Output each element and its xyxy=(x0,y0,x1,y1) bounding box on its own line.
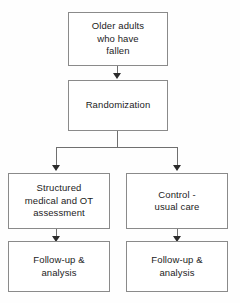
arrow-down-icon xyxy=(113,73,121,79)
node-label: Follow-up & analysis xyxy=(30,254,87,279)
node-randomization: Randomization xyxy=(68,80,168,131)
node-control-usual-care: Control - usual care xyxy=(126,173,228,229)
node-label: Structured medical and OT assessment xyxy=(22,182,96,220)
node-label: Follow-up & analysis xyxy=(148,254,205,279)
arrow-down-icon xyxy=(52,165,60,171)
flowchart-diagram: Older adults who have fallen Randomizati… xyxy=(0,0,240,303)
node-followup-analysis-control: Follow-up & analysis xyxy=(126,241,228,292)
arrow-down-icon xyxy=(173,165,181,171)
connector-fork-left-drop xyxy=(56,147,57,167)
node-followup-analysis-intervention: Follow-up & analysis xyxy=(8,241,110,292)
node-label: Randomization xyxy=(83,99,154,112)
node-older-adults-who-have-fallen: Older adults who have fallen xyxy=(68,12,168,66)
node-label: Control - usual care xyxy=(152,189,203,214)
connector-fork-bar xyxy=(56,147,178,148)
connector-randomization-stem xyxy=(117,131,118,147)
connector-fork-right-drop xyxy=(177,147,178,167)
node-label: Older adults who have fallen xyxy=(89,20,147,58)
node-structured-medical-and-ot-assessment: Structured medical and OT assessment xyxy=(8,173,110,229)
